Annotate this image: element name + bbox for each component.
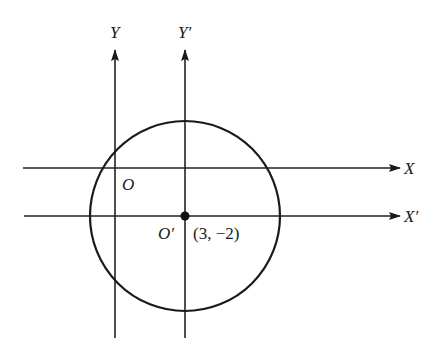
x-axis-label: X xyxy=(403,159,415,178)
y-axis-label: Y xyxy=(110,23,121,42)
new-origin-coords: (3, −2) xyxy=(193,224,239,243)
x-prime-axis-label: X′ xyxy=(403,207,418,226)
new-origin-label: O′ xyxy=(158,224,174,243)
origin-label: O xyxy=(122,175,134,194)
coordinate-diagram: Y Y′ X X′ O O′ (3, −2) xyxy=(0,0,447,357)
center-point xyxy=(181,212,190,221)
y-prime-axis-label: Y′ xyxy=(178,23,191,42)
